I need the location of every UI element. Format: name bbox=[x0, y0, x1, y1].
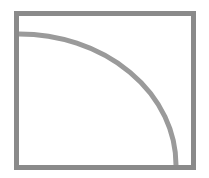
diagram-canvas bbox=[0, 0, 209, 178]
quarter-arc bbox=[19, 34, 176, 165]
